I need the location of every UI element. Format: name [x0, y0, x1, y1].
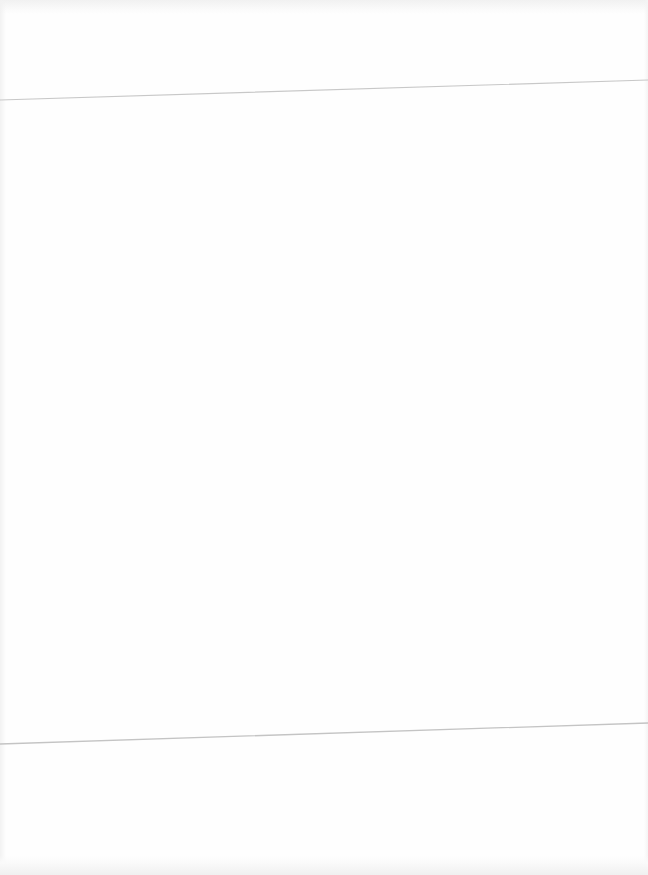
- upper-fold-line: [0, 80, 648, 100]
- lower-fold-line: [0, 723, 648, 744]
- fold-lines: [0, 0, 648, 875]
- blank-document-page: [0, 0, 648, 875]
